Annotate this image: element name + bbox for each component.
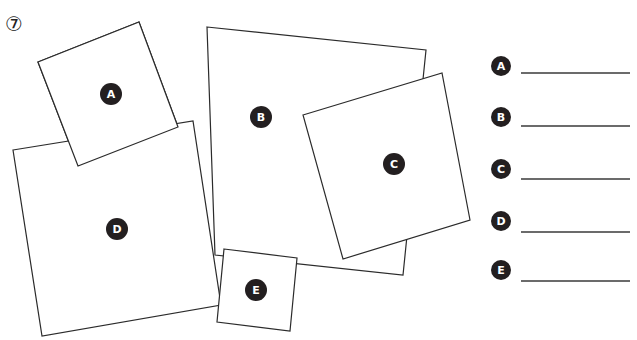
badge-c-label: C — [390, 158, 398, 171]
shape-e: E — [217, 249, 297, 331]
answer-row-b: B — [491, 107, 630, 127]
answer-label-b: B — [497, 111, 505, 124]
badge-d-label: D — [112, 223, 121, 236]
answer-label-d: D — [496, 215, 505, 228]
badge-a-top-label: A — [107, 88, 116, 101]
answer-row-a: A — [491, 56, 630, 76]
question-number: ⑦ — [5, 12, 23, 36]
shape-d: D — [13, 121, 221, 336]
answer-row-c: C — [491, 159, 630, 179]
answer-row-d: D — [491, 211, 630, 232]
badge-e-label: E — [252, 284, 260, 297]
answer-label-c: C — [497, 163, 505, 176]
answer-list: A B C D E — [491, 56, 630, 281]
answer-label-e: E — [497, 264, 505, 277]
badge-b-label: B — [257, 111, 265, 124]
answer-label-a: A — [497, 60, 506, 73]
diagram-canvas: ⑦ A B D A C E A B — [0, 0, 637, 340]
answer-row-e: E — [491, 260, 630, 281]
